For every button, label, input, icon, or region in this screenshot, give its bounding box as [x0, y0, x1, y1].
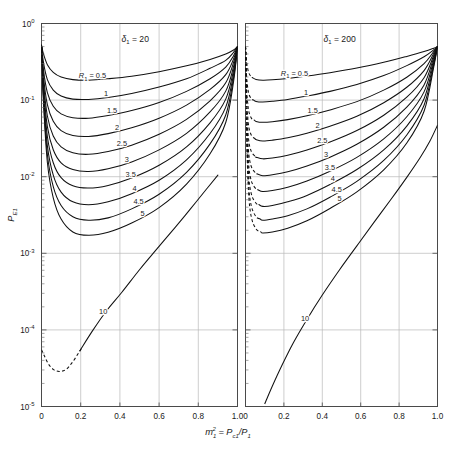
curve-label-r1-3: 3 — [125, 155, 129, 164]
curve-label-r1-4-5: 4.5 — [332, 185, 342, 194]
curve-dashed-r1-0-5 — [246, 47, 253, 78]
curve-label-r1-0-5: R1 = 0.5 — [281, 69, 308, 79]
curve-label-r1-2: 2 — [315, 121, 319, 130]
x-tick-label: 0.8 — [393, 412, 405, 421]
y-axis-title: PE1 — [6, 208, 18, 221]
y-tick-label: 10-3 — [20, 248, 35, 259]
curve-r1-10 — [266, 125, 438, 401]
x-tick-label: 0.6 — [153, 412, 165, 421]
curve-label-r1-2: 2 — [115, 123, 119, 132]
curve-r1-1-5 — [42, 45, 238, 118]
curve-label-r1-3-5: 3.5 — [126, 170, 136, 179]
curve-label-r1-5: 5 — [140, 209, 144, 218]
curve-label-r1-2-5: 2.5 — [117, 139, 127, 148]
curve-r1-4-5 — [42, 45, 238, 220]
curve-r1-2 — [42, 45, 238, 136]
curve-label-r1-4: 4 — [133, 184, 137, 193]
x-tick-label: 0.2 — [278, 412, 290, 421]
curve-label-r1-1: 1 — [304, 88, 308, 97]
figure-container: 00.20.40.60.81.010010-110-210-310-410-5δ… — [0, 0, 456, 450]
x-tick-label: 0.6 — [355, 412, 367, 421]
x-tick-label: 0 — [243, 412, 248, 421]
y-tick-label: 100 — [22, 18, 35, 29]
curve-label-r1-2-5: 2.5 — [317, 136, 327, 145]
curve-r1-3-5 — [42, 45, 238, 188]
curve-label-r1-3: 3 — [324, 150, 328, 159]
curve-label-r1-4-5: 4.5 — [133, 197, 143, 206]
curve-label-r1-1-5: 1.5 — [308, 106, 318, 115]
y-tick-label: 10-1 — [20, 95, 34, 106]
curve-label-r1-1: 1 — [104, 89, 108, 98]
panel-title-right: δ1 = 200 — [324, 34, 356, 46]
plot-frame — [246, 24, 438, 407]
curve-label-r1-10: 10 — [301, 314, 309, 323]
curve-label-r1-3-5: 3.5 — [325, 163, 335, 172]
x-tick-label: 0 — [39, 412, 44, 421]
curve-r1-5 — [42, 45, 238, 235]
curve-label-r1-1-5: 1.5 — [107, 106, 117, 115]
x-axis-title: m12 = Pc1/P1 — [205, 426, 250, 439]
x-tick-label: 0.2 — [75, 412, 87, 421]
x-tick-label: 0.4 — [317, 412, 329, 421]
panel-left: 00.20.40.60.81.010010-110-210-310-410-5δ… — [20, 18, 243, 421]
panel-right: 00.20.40.60.81.0δ1 = 200R1 = 0.5R1 = 0.5… — [243, 24, 443, 421]
y-tick-label: 10-2 — [20, 171, 34, 182]
x-tick-label: 1.0 — [232, 412, 244, 421]
x-tick-label: 0.4 — [114, 412, 126, 421]
curve-label-r1-5: 5 — [338, 194, 342, 203]
x-tick-label: 1.0 — [432, 412, 444, 421]
curve-r1-10 — [80, 175, 218, 351]
panel-title-left: δ1 = 20 — [122, 34, 150, 46]
chart-canvas: 00.20.40.60.81.010010-110-210-310-410-5δ… — [0, 0, 456, 450]
curve-dashed-r1-10 — [42, 349, 82, 372]
x-tick-label: 0.8 — [193, 412, 205, 421]
y-tick-label: 10-4 — [20, 324, 35, 335]
curve-label-r1-0-5: R1 = 0.5 — [79, 71, 106, 81]
curve-dashed-r1-4-5 — [246, 47, 260, 219]
curve-label-r1-4: 4 — [331, 174, 335, 183]
y-tick-label: 10-5 — [20, 401, 35, 412]
curve-label-r1-10: 10 — [99, 307, 107, 316]
curve-r1-0-5 — [42, 45, 238, 80]
